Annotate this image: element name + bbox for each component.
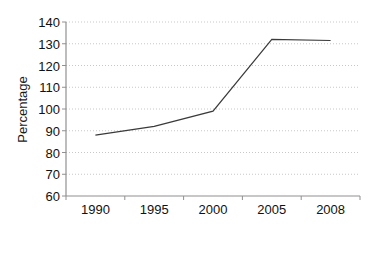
- y-axis-line: [62, 22, 66, 196]
- line-chart: Percentage 60 70 80 90 100 110 120 130 1…: [0, 0, 375, 254]
- x-axis-line: [66, 196, 360, 200]
- x-tick-label: 2008: [301, 202, 360, 224]
- chart-screenshot: Percentage 60 70 80 90 100 110 120 130 1…: [0, 0, 375, 254]
- x-axis-tick-labels: 1990 1995 2000 2005 2008: [66, 202, 360, 224]
- x-tick-label: 2005: [242, 202, 301, 224]
- x-tick-label: 1995: [125, 202, 184, 224]
- x-tick-label: 2000: [184, 202, 243, 224]
- x-tick-label: 1990: [66, 202, 125, 224]
- gridlines: [66, 22, 360, 174]
